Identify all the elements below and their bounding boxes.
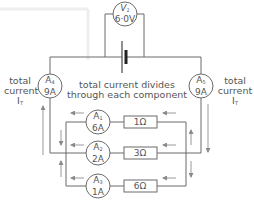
ammeter-a1-value: 6A — [86, 124, 110, 133]
resistor-6ohm-label: 6Ω — [124, 180, 156, 192]
ammeter-a5-value: 9A — [189, 88, 213, 97]
right-wire-lower — [186, 98, 201, 153]
ammeter-a5-label: A5 — [189, 76, 213, 87]
center-annotation: total current divides through each compo… — [66, 80, 188, 100]
ammeter-a3-value: 1A — [86, 188, 110, 197]
voltmeter-value: 6·0V — [111, 15, 139, 24]
battery-icon — [122, 41, 126, 73]
ammeter-a2-label: A2 — [86, 143, 110, 154]
circuit-diagram — [0, 0, 254, 207]
ammeter-a1-label: A1 — [86, 112, 110, 123]
left-wire-lower — [50, 98, 66, 153]
resistor-3ohm-label: 3Ω — [124, 147, 156, 159]
shadow-artifact — [0, 9, 88, 60]
ammeter-a3-label: A3 — [86, 176, 110, 187]
ammeter-a4-label: A4 — [38, 76, 62, 87]
ammeter-a2-value: 2A — [86, 155, 110, 164]
ammeter-a4-value: 9A — [38, 88, 62, 97]
left-total-current-annotation: total current IT — [4, 76, 36, 108]
resistor-1ohm-label: 1Ω — [124, 116, 156, 128]
right-total-current-annotation: total current IT — [217, 76, 253, 108]
